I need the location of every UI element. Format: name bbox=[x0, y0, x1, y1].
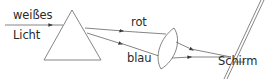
red-ray bbox=[85, 28, 166, 34]
converging-lens bbox=[158, 28, 177, 69]
label-blue-ray: blau bbox=[127, 53, 151, 65]
label-white-light-line1: weißes bbox=[13, 10, 52, 22]
label-red-ray: rot bbox=[131, 17, 147, 29]
label-screen: Schirm bbox=[218, 56, 257, 68]
label-white-light-line2: Licht bbox=[13, 30, 40, 42]
